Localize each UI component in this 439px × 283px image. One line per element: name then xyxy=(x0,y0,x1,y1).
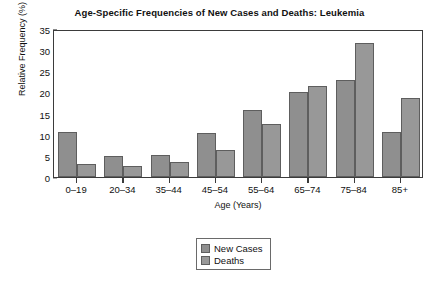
bar-new-cases xyxy=(289,92,308,177)
bar-deaths xyxy=(262,124,281,177)
legend-swatch-deaths xyxy=(201,256,210,265)
chart-title: Age-Specific Frequencies of New Cases an… xyxy=(0,7,439,18)
y-tick-label: 30 xyxy=(0,46,50,57)
plot-frame xyxy=(53,30,423,178)
y-tick-label: 35 xyxy=(0,25,50,36)
bar-deaths xyxy=(216,150,235,177)
legend-label-new-cases: New Cases xyxy=(214,243,263,254)
x-tick-label: 0–19 xyxy=(66,184,87,195)
y-tick-label: 10 xyxy=(0,130,50,141)
legend-label-deaths: Deaths xyxy=(214,255,244,266)
x-tick-mark xyxy=(215,178,216,183)
x-tick-label: 65–74 xyxy=(294,184,320,195)
bar-new-cases xyxy=(58,132,77,177)
chart-figure: Age-Specific Frequencies of New Cases an… xyxy=(0,0,439,283)
bar-deaths xyxy=(77,164,96,177)
legend-swatch-new-cases xyxy=(201,244,210,253)
x-tick-mark xyxy=(76,178,77,183)
legend-item-new-cases: New Cases xyxy=(201,242,263,254)
bar-deaths xyxy=(170,162,189,177)
bar-new-cases xyxy=(104,156,123,177)
x-tick-label: 75–84 xyxy=(340,184,366,195)
y-tick-label: 15 xyxy=(0,109,50,120)
x-tick-mark xyxy=(169,178,170,183)
x-tick-label: 55–64 xyxy=(248,184,274,195)
bar-new-cases xyxy=(243,110,262,177)
x-tick-mark xyxy=(261,178,262,183)
y-tick-label: 25 xyxy=(0,67,50,78)
plot-area xyxy=(54,31,422,177)
bar-new-cases xyxy=(382,132,401,177)
chart-legend: New Cases Deaths xyxy=(196,238,271,270)
bar-deaths xyxy=(308,86,327,177)
bar-deaths xyxy=(401,98,420,177)
y-tick-label: 20 xyxy=(0,88,50,99)
bar-new-cases xyxy=(197,133,216,177)
x-tick-mark xyxy=(400,178,401,183)
x-tick-label: 20–34 xyxy=(109,184,135,195)
x-tick-mark xyxy=(307,178,308,183)
y-tick-label: 0 xyxy=(0,173,50,184)
bar-new-cases xyxy=(336,80,355,177)
x-tick-mark xyxy=(354,178,355,183)
x-axis-title: Age (Years) xyxy=(53,200,423,210)
bar-deaths xyxy=(355,43,374,177)
x-tick-label: 35–44 xyxy=(155,184,181,195)
x-tick-label: 45–54 xyxy=(202,184,228,195)
legend-item-deaths: Deaths xyxy=(201,254,263,266)
bar-deaths xyxy=(123,166,142,177)
bar-new-cases xyxy=(151,155,170,177)
y-tick-label: 5 xyxy=(0,151,50,162)
x-tick-mark xyxy=(122,178,123,183)
x-tick-label: 85+ xyxy=(392,184,408,195)
